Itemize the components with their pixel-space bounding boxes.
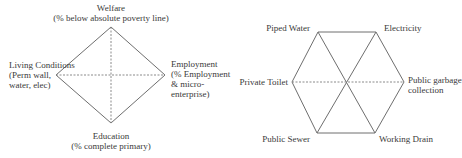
living-conditions-label: Living Conditions (Perm wall, water, ele… bbox=[9, 60, 75, 90]
employment-label: Employment (% Employment & micro- enterp… bbox=[171, 59, 230, 99]
welfare-subtitle: (% below absolute poverty line) bbox=[51, 13, 171, 23]
employment-line2: (% Employment bbox=[171, 69, 230, 79]
electricity-label: Electricity bbox=[384, 23, 421, 33]
living-conditions-line1: Living Conditions bbox=[9, 60, 75, 70]
education-title: Education bbox=[61, 131, 161, 141]
education-label: Education (% complete primary) bbox=[61, 131, 161, 151]
living-conditions-line2: (Perm wall, bbox=[9, 70, 75, 80]
welfare-title: Welfare bbox=[51, 3, 171, 13]
employment-line4: enterprise) bbox=[171, 89, 230, 99]
welfare-label: Welfare (% below absolute poverty line) bbox=[51, 3, 171, 23]
public-garbage-line1: Public garbage bbox=[408, 75, 462, 85]
education-subtitle: (% complete primary) bbox=[61, 141, 161, 151]
working-drain-label: Working Drain bbox=[379, 134, 433, 144]
hexagon-shape bbox=[292, 32, 404, 133]
piped-water-label: Piped Water bbox=[250, 23, 310, 33]
living-conditions-line3: water, elec) bbox=[9, 80, 75, 90]
public-sewer-label: Public Sewer bbox=[250, 134, 310, 144]
employment-line3: & micro- bbox=[171, 79, 230, 89]
private-toilet-label: Private Toilet bbox=[225, 77, 288, 87]
public-garbage-label: Public garbage collection bbox=[408, 75, 462, 95]
public-garbage-line2: collection bbox=[408, 85, 462, 95]
employment-line1: Employment bbox=[171, 59, 230, 69]
